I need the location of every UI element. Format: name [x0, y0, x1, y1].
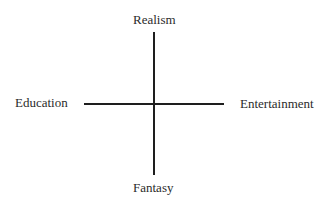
axis-label-left: Education [15, 96, 68, 110]
axis-label-top: Realism [133, 13, 176, 27]
axis-label-right: Entertainment [240, 97, 314, 111]
axis-label-bottom: Fantasy [133, 181, 173, 195]
horizontal-axis-line [84, 103, 224, 105]
